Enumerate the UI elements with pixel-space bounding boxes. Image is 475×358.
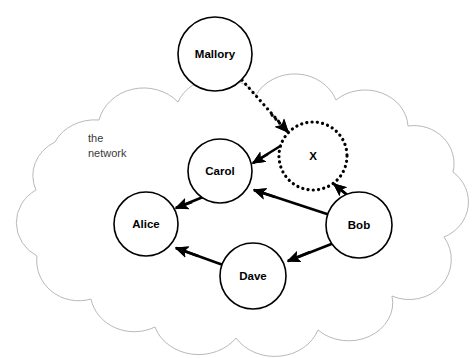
node-carol-label: Carol	[205, 165, 234, 177]
node-bob[interactable]: Bob	[326, 192, 392, 258]
node-bob-label: Bob	[348, 219, 370, 231]
node-x[interactable]: X	[279, 122, 347, 190]
cloud-label-line-1: the	[88, 132, 103, 144]
cloud-label-line-2: network	[88, 147, 127, 159]
node-mallory[interactable]: Mallory	[178, 17, 252, 91]
node-carol[interactable]: Carol	[188, 139, 252, 203]
node-dave[interactable]: Dave	[220, 243, 286, 309]
diagram-canvas: the network Mallory	[0, 0, 475, 358]
cloud-outline	[16, 74, 468, 356]
node-alice-label: Alice	[132, 218, 160, 230]
network-cloud	[16, 74, 468, 356]
node-mallory-label: Mallory	[195, 48, 236, 60]
node-alice[interactable]: Alice	[114, 192, 178, 256]
network-diagram: the network Mallory	[0, 0, 475, 358]
node-dave-label: Dave	[239, 270, 267, 282]
node-x-label: X	[309, 150, 317, 162]
